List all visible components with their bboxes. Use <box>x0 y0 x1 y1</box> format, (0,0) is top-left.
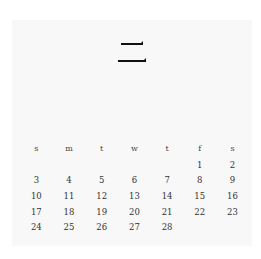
day-cell: 6 <box>118 175 151 185</box>
day-cell: 19 <box>85 207 118 217</box>
weekday-label: f <box>183 144 216 153</box>
day-cell: 1 <box>183 160 216 170</box>
day-cell: 20 <box>118 207 151 217</box>
calendar-grid: s m t w t f s 1 2 3 4 5 6 7 8 9 10 11 12… <box>20 141 256 235</box>
day-cell: 12 <box>85 191 118 201</box>
week-row: 3 4 5 6 7 8 9 <box>20 172 256 188</box>
week-row: 24 25 26 27 28 <box>20 219 256 235</box>
day-cell: 15 <box>183 191 216 201</box>
day-cell: 3 <box>20 175 53 185</box>
day-cell: 25 <box>53 222 86 232</box>
weekday-header: s m t w t f s <box>20 141 256 157</box>
day-cell: 14 <box>151 191 184 201</box>
day-cell: 7 <box>151 175 184 185</box>
weekday-label: t <box>85 144 118 153</box>
day-cell: 27 <box>118 222 151 232</box>
day-cell: 22 <box>183 207 216 217</box>
day-cell: 17 <box>20 207 53 217</box>
weekday-label: s <box>216 144 249 153</box>
week-row: 1 2 <box>20 157 256 173</box>
day-cell: 18 <box>53 207 86 217</box>
day-cell: 4 <box>53 175 86 185</box>
day-cell: 8 <box>183 175 216 185</box>
week-row: 17 18 19 20 21 22 23 <box>20 204 256 220</box>
day-cell: 10 <box>20 191 53 201</box>
day-cell: 23 <box>216 207 249 217</box>
day-cell: 2 <box>216 160 249 170</box>
day-cell: 21 <box>151 207 184 217</box>
week-row: 10 11 12 13 14 15 16 <box>20 188 256 204</box>
day-cell: 9 <box>216 175 249 185</box>
month-glyph-lower-stroke <box>118 60 145 62</box>
day-cell: 16 <box>216 191 249 201</box>
day-cell: 11 <box>53 191 86 201</box>
weekday-label: t <box>151 144 184 153</box>
day-cell: 26 <box>85 222 118 232</box>
day-cell: 28 <box>151 222 184 232</box>
month-glyph-upper-stroke <box>121 43 142 45</box>
day-cell: 24 <box>20 222 53 232</box>
day-cell: 13 <box>118 191 151 201</box>
day-cell: 5 <box>85 175 118 185</box>
weekday-label: m <box>53 144 86 153</box>
weekday-label: s <box>20 144 53 153</box>
weekday-label: w <box>118 144 151 153</box>
